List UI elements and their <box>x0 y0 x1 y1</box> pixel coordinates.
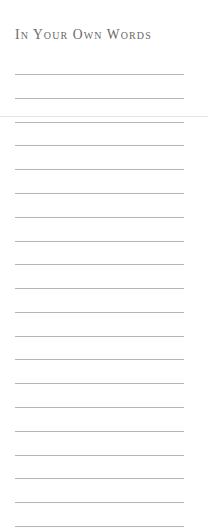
writing-line <box>15 169 184 170</box>
writing-line <box>15 455 184 456</box>
writing-line <box>15 312 184 313</box>
worksheet-page: In Your Own Words <box>0 0 208 532</box>
writing-line <box>15 145 184 146</box>
writing-line <box>15 383 184 384</box>
writing-line <box>15 98 184 99</box>
writing-line <box>15 336 184 337</box>
writing-line <box>15 288 184 289</box>
writing-line <box>15 478 184 479</box>
writing-line <box>15 359 184 360</box>
writing-line <box>15 122 184 123</box>
writing-line <box>15 74 184 75</box>
writing-line <box>15 502 184 503</box>
writing-line <box>15 431 184 432</box>
writing-line <box>15 217 184 218</box>
writing-line <box>15 264 184 265</box>
writing-line <box>15 241 184 242</box>
writing-line <box>15 407 184 408</box>
writing-line <box>15 526 184 527</box>
writing-line <box>15 193 184 194</box>
writing-lines <box>0 0 208 532</box>
